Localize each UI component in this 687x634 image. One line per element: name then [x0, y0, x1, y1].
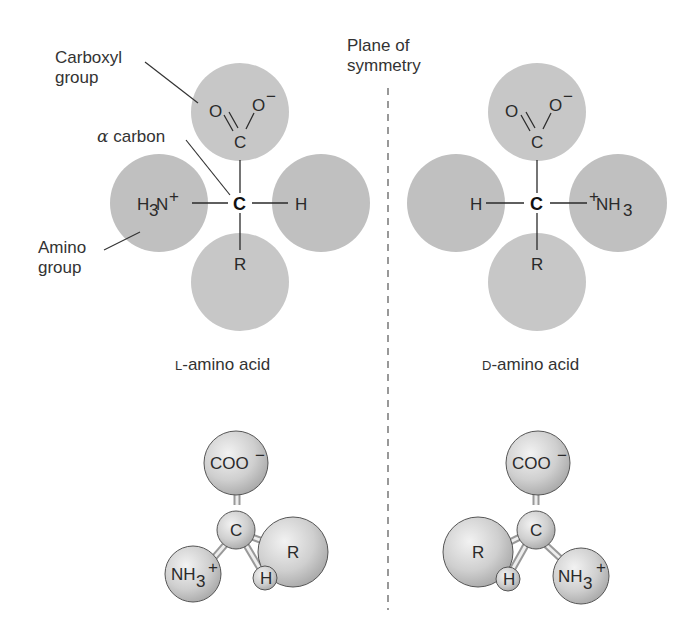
svg-text:3: 3 [196, 572, 205, 591]
svg-text:COO: COO [210, 454, 249, 473]
plane-of-symmetry-label: Plane of symmetry [347, 36, 421, 76]
d-amino-acid-projection: O O − C C H + NH 3 R [407, 63, 667, 331]
svg-text:H: H [260, 569, 272, 588]
svg-text:O: O [549, 96, 562, 115]
svg-text:3: 3 [623, 201, 632, 220]
svg-text:O: O [252, 96, 265, 115]
svg-text:NH: NH [596, 195, 621, 214]
svg-text:H: H [503, 570, 515, 589]
svg-text:C: C [531, 133, 543, 152]
svg-text:+: + [596, 558, 606, 577]
carboxyl-group-label: Carboxyl group [55, 48, 122, 88]
svg-text:R: R [287, 543, 299, 562]
svg-text:H: H [470, 195, 482, 214]
carboxyl-leader-line [145, 62, 198, 103]
svg-text:C: C [230, 521, 242, 540]
svg-text:−: − [266, 87, 276, 106]
svg-text:R: R [472, 543, 484, 562]
svg-text:+: + [208, 558, 218, 577]
svg-text:N: N [156, 195, 168, 214]
amino-group-label: Amino group [38, 238, 86, 278]
svg-text:C: C [234, 133, 246, 152]
svg-text:NH: NH [171, 565, 196, 584]
svg-text:C: C [530, 521, 542, 540]
svg-text:R: R [234, 255, 246, 274]
svg-text:O: O [209, 102, 222, 121]
d-ball-and-stick-model: COO − C NH 3 + H R [443, 431, 609, 604]
svg-text:3: 3 [583, 574, 592, 593]
alpha-carbon-label: α carbon [97, 126, 165, 147]
svg-text:R: R [531, 255, 543, 274]
l-amino-acid-caption: L-amino acid [175, 355, 270, 376]
l-ball-and-stick-model: COO − C NH 3 + H R [165, 431, 328, 602]
svg-text:C: C [530, 194, 543, 214]
svg-text:C: C [233, 194, 246, 214]
svg-text:+: + [169, 187, 179, 206]
svg-text:COO: COO [512, 454, 551, 473]
d-amino-acid-caption: D-amino acid [482, 355, 579, 376]
svg-text:−: − [563, 87, 573, 106]
svg-text:H: H [295, 195, 307, 214]
svg-text:−: − [255, 446, 265, 465]
svg-text:O: O [505, 102, 518, 121]
l-amino-acid-projection: O O − C C H 3 N + H R [104, 62, 370, 331]
diagram-canvas: O O − C C H 3 N + H R O O − C C H + NH 3… [0, 0, 687, 634]
svg-text:H: H [137, 195, 149, 214]
svg-text:NH: NH [558, 567, 583, 586]
svg-text:−: − [557, 446, 567, 465]
